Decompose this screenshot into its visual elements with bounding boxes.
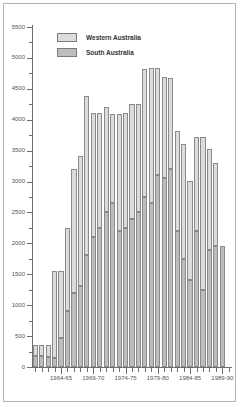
bar-segment-south-australia <box>117 231 122 367</box>
bar-segment-south-australia <box>97 228 102 367</box>
bar-column <box>39 345 44 367</box>
x-tick-major <box>190 368 191 374</box>
stacked-bar-chart: 0500100015002000250030003500400045005000… <box>0 0 241 407</box>
bar-segment-western-australia <box>84 96 89 255</box>
bar-segment-south-australia <box>65 311 70 367</box>
bar-column <box>187 181 192 367</box>
x-tick-minor <box>164 368 165 372</box>
y-tick-label: 4000 <box>1 116 25 122</box>
bar-segment-south-australia <box>168 169 173 367</box>
y-tick-major <box>27 367 32 368</box>
legend-swatch-south-australia <box>57 48 77 57</box>
x-tick-minor <box>42 368 43 372</box>
plot-area <box>32 27 232 367</box>
bar-column <box>117 114 122 367</box>
x-tick-minor <box>209 368 210 372</box>
bar-segment-western-australia <box>110 114 115 203</box>
bar-segment-south-australia <box>200 290 205 367</box>
bar-column <box>58 271 63 367</box>
bar-column <box>155 68 160 367</box>
x-tick-minor <box>48 368 49 372</box>
bar-segment-south-australia <box>194 231 199 367</box>
bar-segment-western-australia <box>136 104 141 213</box>
bar-column <box>175 131 180 367</box>
bar-column <box>136 104 141 367</box>
bar-segment-south-australia <box>181 259 186 367</box>
bar-column <box>194 137 199 367</box>
x-tick-minor <box>151 368 152 372</box>
bar-segment-south-australia <box>78 286 83 367</box>
legend-item-western-australia: Western Australia <box>57 30 141 45</box>
bar-segment-western-australia <box>181 144 186 259</box>
bar-segment-south-australia <box>58 338 63 367</box>
bar-column <box>200 137 205 367</box>
bar-segment-western-australia <box>187 181 192 281</box>
bar-column <box>52 271 57 367</box>
bar-column <box>129 104 134 367</box>
bar-column <box>84 96 89 367</box>
y-tick-label: 2500 <box>1 209 25 215</box>
x-tick-minor <box>113 368 114 372</box>
bar-segment-south-australia <box>175 231 180 367</box>
bar-column <box>162 77 167 367</box>
bar-segment-south-australia <box>84 255 89 368</box>
x-tick-major <box>158 368 159 374</box>
y-tick-label: 5500 <box>1 24 25 30</box>
x-tick-minor <box>132 368 133 372</box>
x-tick-minor <box>197 368 198 372</box>
bar-segment-western-australia <box>142 69 147 197</box>
bar-segment-south-australia <box>110 203 115 367</box>
bar-segment-western-australia <box>155 68 160 175</box>
x-tick-minor <box>100 368 101 372</box>
y-tick-label: 500 <box>1 333 25 339</box>
x-tick-minor <box>35 368 36 372</box>
bar-segment-western-australia <box>149 68 154 203</box>
chart-legend: Western Australia South Australia <box>57 30 141 60</box>
bar-column <box>65 228 70 367</box>
x-tick-major <box>126 368 127 374</box>
bar-column <box>149 68 154 367</box>
y-tick-label: 3500 <box>1 147 25 153</box>
bar-segment-south-australia <box>220 246 225 367</box>
legend-item-south-australia: South Australia <box>57 45 141 60</box>
bar-segment-western-australia <box>117 114 122 231</box>
legend-label-south-australia: South Australia <box>86 49 134 56</box>
x-tick-major <box>93 368 94 374</box>
bar-column <box>97 113 102 367</box>
y-tick-label: 1000 <box>1 302 25 308</box>
x-tick-minor <box>216 368 217 372</box>
bar-column <box>168 78 173 367</box>
bar-segment-western-australia <box>52 271 57 358</box>
bar-column <box>220 246 225 367</box>
bar-segment-western-australia <box>104 107 109 212</box>
x-tick-minor <box>184 368 185 372</box>
x-tick-minor <box>177 368 178 372</box>
x-tick-major <box>222 368 223 374</box>
bar-segment-western-australia <box>39 345 44 356</box>
x-tick-minor <box>74 368 75 372</box>
y-tick-label: 3000 <box>1 178 25 184</box>
bar-segment-western-australia <box>65 228 70 311</box>
bar-segment-south-australia <box>33 356 38 367</box>
bar-segment-western-australia <box>33 345 38 356</box>
bar-segment-south-australia <box>136 212 141 367</box>
bar-column <box>110 114 115 367</box>
bar-column <box>78 156 83 367</box>
bar-column <box>104 107 109 367</box>
bar-column <box>71 169 76 367</box>
bar-column <box>123 113 128 367</box>
bar-segment-western-australia <box>162 77 167 178</box>
bar-segment-western-australia <box>78 156 83 286</box>
bar-segment-western-australia <box>97 113 102 228</box>
bar-segment-western-australia <box>91 113 96 237</box>
y-tick-label: 0 <box>1 364 25 370</box>
bar-column <box>181 144 186 367</box>
bar-segment-western-australia <box>123 113 128 228</box>
bar-segment-western-australia <box>46 345 51 356</box>
x-tick-minor <box>87 368 88 372</box>
legend-label-western-australia: Western Australia <box>86 34 141 41</box>
bar-segment-western-australia <box>129 104 134 219</box>
bar-segment-western-australia <box>175 131 180 231</box>
x-tick-label: 1989-90 <box>202 375 241 382</box>
bar-column <box>91 113 96 367</box>
